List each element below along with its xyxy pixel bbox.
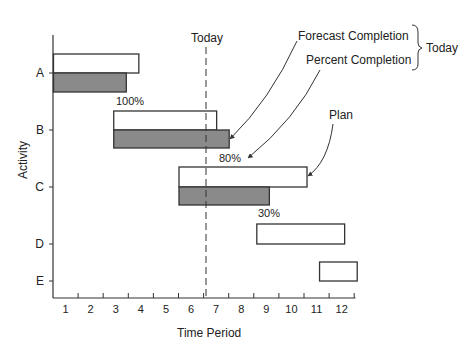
actual-bar-c [179,187,269,205]
x-tick-label: 6 [188,303,194,315]
plan-bar-b [114,111,217,130]
x-axis-title: Time Period [177,326,241,340]
x-tick-label: 4 [138,303,144,315]
plan-bar-e [320,262,358,281]
y-tick-label-d: D [35,237,44,251]
percent-arrow [248,70,320,158]
y-tick-label-a: A [36,66,44,80]
plan-bar-c [179,167,307,187]
actual-bar-b [114,130,229,148]
plan-bar-a [54,54,139,73]
percent-completion-label: Percent Completion [306,53,411,67]
x-tick-label: 8 [238,303,244,315]
plan-label: Plan [329,108,353,122]
x-tick-label: 5 [163,303,169,315]
percent-label-c: 30% [258,207,280,219]
x-tick-label: 7 [213,303,219,315]
x-tick-label: 12 [336,303,348,315]
percent-label-b: 80% [219,152,241,164]
today-marker-label: Today [191,31,223,45]
today-brace-label: Today [426,41,458,55]
x-tick-label: 1 [62,303,68,315]
forecast-arrow [230,41,297,139]
plan-bar-d [257,224,345,244]
percent-label-a: 100% [116,95,144,107]
x-tick-label: 9 [263,303,269,315]
forecast-completion-label: Forecast Completion [298,29,409,43]
x-tick-label: 11 [311,303,322,315]
plan-arrow [308,124,333,176]
x-tick-label: 3 [113,303,119,315]
actual-bar-a [54,73,127,92]
y-tick-label-b: B [36,123,44,137]
y-tick-label-c: C [35,180,44,194]
x-tick-label: 2 [88,303,94,315]
y-axis-title: Activity [16,141,30,179]
x-tick-label: 10 [285,303,297,315]
y-tick-label-e: E [36,274,44,288]
curly-brace [412,25,422,70]
